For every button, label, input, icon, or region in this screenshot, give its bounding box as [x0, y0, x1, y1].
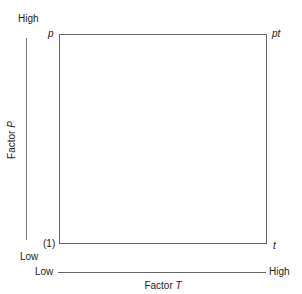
vertical-axis-high: High — [18, 13, 39, 25]
vertical-axis-title-prefix: Factor — [6, 128, 17, 159]
corner-label-1: (1) — [43, 238, 55, 250]
vertical-axis-title: Factor P — [6, 110, 18, 170]
corner-label-t: t — [273, 240, 276, 252]
corner-label-pt: pt — [272, 28, 280, 40]
horizontal-axis-title-var: T — [176, 280, 182, 291]
horizontal-axis-title-prefix: Factor — [144, 280, 175, 291]
horizontal-axis-low: Low — [35, 266, 53, 278]
design-square — [60, 35, 267, 244]
vertical-axis-low: Low — [20, 251, 38, 263]
horizontal-axis-high: High — [269, 266, 290, 278]
corner-label-p: p — [48, 28, 54, 40]
vertical-axis-title-var: P — [6, 121, 17, 128]
horizontal-axis-title: Factor T — [133, 280, 193, 292]
